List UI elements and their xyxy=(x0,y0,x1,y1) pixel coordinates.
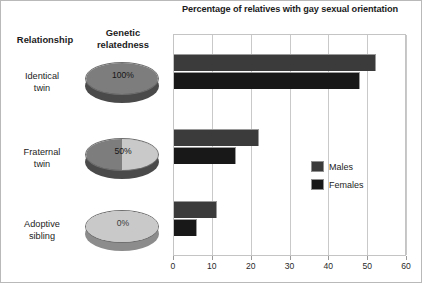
relationship-label: Identicaltwin xyxy=(5,71,79,94)
genetic-relatedness-disc: 50% xyxy=(83,133,163,185)
bar-males-adoptive-sibling xyxy=(174,201,217,218)
relationship-label-line2: sibling xyxy=(29,231,55,241)
legend-item-males: Males xyxy=(311,159,401,174)
genetic-relatedness-value: 50% xyxy=(83,146,163,156)
bar-males-fraternal-twin xyxy=(174,129,259,146)
x-tick-mark xyxy=(173,256,174,260)
relationship-label-line2: twin xyxy=(34,83,50,93)
legend-swatch xyxy=(311,179,324,190)
x-tick-label: 30 xyxy=(275,261,305,271)
genetic-relatedness-disc: 0% xyxy=(83,205,163,257)
relationship-row: Adoptivesibling0% xyxy=(1,201,171,263)
relationship-label-line1: Adoptive xyxy=(24,219,60,229)
bar-females-adoptive-sibling xyxy=(174,219,197,236)
bar-males-identical-twin xyxy=(174,54,376,71)
x-tick-mark xyxy=(328,256,329,260)
legend-label: Females xyxy=(329,180,364,190)
x-axis: 0102030405060 xyxy=(173,256,406,262)
genetic-relatedness-disc: 100% xyxy=(83,57,163,109)
x-tick-mark xyxy=(406,256,407,260)
figure-container: Percentage of relatives with gay sexual … xyxy=(0,0,422,283)
relationship-row: Fraternaltwin50% xyxy=(1,129,171,191)
x-tick-label: 40 xyxy=(313,261,343,271)
legend-item-females: Females xyxy=(311,177,401,192)
x-tick-label: 0 xyxy=(158,261,188,271)
plot-area xyxy=(173,34,406,256)
bar-females-identical-twin xyxy=(174,72,360,89)
genetic-relatedness-value: 100% xyxy=(83,70,163,80)
relationship-label: Adoptivesibling xyxy=(5,219,79,242)
relationship-label: Fraternaltwin xyxy=(5,147,79,170)
legend-swatch xyxy=(311,161,324,172)
relationship-label-line1: Identical xyxy=(25,71,59,81)
legend-label: Males xyxy=(329,162,353,172)
gridline xyxy=(406,35,407,255)
x-tick-mark xyxy=(290,256,291,260)
x-tick-label: 10 xyxy=(197,261,227,271)
bar-females-fraternal-twin xyxy=(174,147,236,164)
x-tick-label: 50 xyxy=(352,261,382,271)
relationship-label-line1: Fraternal xyxy=(24,147,61,157)
chart-title: Percentage of relatives with gay sexual … xyxy=(173,3,407,15)
genetic-relatedness-value: 0% xyxy=(83,218,163,228)
x-tick-mark xyxy=(367,256,368,260)
relationship-row: Identicaltwin100% xyxy=(1,53,171,115)
chart-legend: MalesFemales xyxy=(311,159,401,195)
column-header-genetic-relatedness: Genetic relatedness xyxy=(83,27,163,51)
x-tick-mark xyxy=(212,256,213,260)
header-relatedness-line1: Genetic xyxy=(106,27,140,38)
x-tick-label: 20 xyxy=(236,261,266,271)
header-relatedness-line2: relatedness xyxy=(97,39,149,50)
relationship-label-line2: twin xyxy=(34,159,50,169)
column-header-relationship: Relationship xyxy=(9,34,81,46)
x-tick-mark xyxy=(251,256,252,260)
x-tick-label: 60 xyxy=(391,261,421,271)
